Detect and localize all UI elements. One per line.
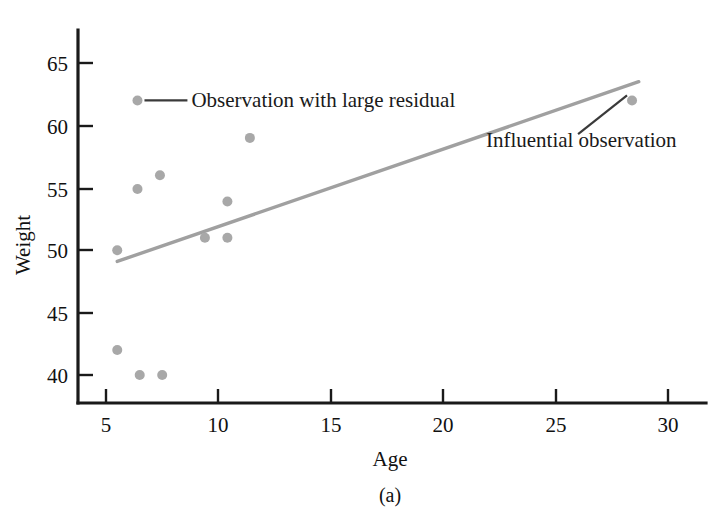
y-tick-label-60: 60 <box>47 115 68 139</box>
data-point <box>222 233 232 243</box>
data-point <box>112 245 122 255</box>
y-tick-label-40: 40 <box>47 364 68 388</box>
data-point <box>155 170 165 180</box>
y-tick-label-55: 55 <box>47 178 68 202</box>
x-tick-label-20: 20 <box>433 413 454 437</box>
data-point <box>157 370 167 380</box>
data-point <box>222 197 232 207</box>
x-tick-label-15: 15 <box>321 413 342 437</box>
residual-annotation-label: Observation with large residual <box>191 88 455 112</box>
data-point <box>132 184 142 194</box>
y-tick-label-45: 45 <box>47 302 68 326</box>
y-tick-label-65: 65 <box>47 52 68 76</box>
data-point <box>200 233 210 243</box>
data-point <box>132 95 142 105</box>
figure-caption: (a) <box>379 484 401 507</box>
x-tick-label-25: 25 <box>546 413 567 437</box>
scatter-plot: 65 60 55 50 45 40 5 10 15 20 25 30 Age W… <box>0 0 723 525</box>
influential-annotation-label: Influential observation <box>486 128 677 152</box>
x-axis-tick-labels: 5 10 15 20 25 30 <box>101 413 679 437</box>
figure-panel: 65 60 55 50 45 40 5 10 15 20 25 30 Age W… <box>0 0 723 525</box>
x-axis-title: Age <box>373 447 408 471</box>
y-axis-title: Weight <box>11 215 35 275</box>
y-tick-label-50: 50 <box>47 239 68 263</box>
x-tick-label-30: 30 <box>658 413 679 437</box>
x-tick-label-10: 10 <box>208 413 229 437</box>
data-point <box>112 345 122 355</box>
y-axis-tick-labels: 65 60 55 50 45 40 <box>47 52 68 388</box>
x-tick-label-5: 5 <box>101 413 112 437</box>
data-point <box>135 370 145 380</box>
data-point <box>627 95 637 105</box>
x-axis-ticks <box>106 389 668 403</box>
y-axis-ticks <box>78 63 93 375</box>
data-point <box>245 133 255 143</box>
